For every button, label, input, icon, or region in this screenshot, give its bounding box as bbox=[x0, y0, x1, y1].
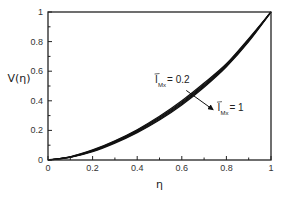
annotation-value: = 1 bbox=[229, 102, 244, 113]
y-tick-label: 0.2 bbox=[30, 125, 43, 135]
chart: 00.20.40.60.8100.20.40.60.81 η V(η) IMx … bbox=[0, 0, 281, 199]
annotation-subscript: Mx bbox=[158, 82, 166, 88]
annotation-layer: IMx = 0.2IMx = 1 bbox=[155, 74, 245, 117]
annotation-label-1: IMx = 0.2 bbox=[155, 74, 190, 89]
x-tick-label: 1 bbox=[268, 163, 273, 173]
x-tick-label: 0.8 bbox=[220, 163, 233, 173]
y-tick-label: 1 bbox=[38, 7, 43, 17]
tilde-mark bbox=[155, 74, 160, 75]
x-tick-label: 0.6 bbox=[176, 163, 189, 173]
annotation-arrow bbox=[186, 90, 213, 109]
y-tick-label: 0.8 bbox=[30, 37, 43, 47]
annotation-value: = 0.2 bbox=[167, 74, 190, 85]
x-tick-label: 0 bbox=[45, 163, 50, 173]
y-axis-label: V(η) bbox=[7, 72, 30, 85]
x-axis-label: η bbox=[156, 178, 163, 191]
y-tick-label: 0.4 bbox=[30, 96, 43, 106]
tick-labels-layer: 00.20.40.60.8100.20.40.60.81 bbox=[30, 7, 273, 173]
tilde-mark bbox=[217, 102, 222, 103]
annotation-subscript: Mx bbox=[220, 110, 228, 116]
x-tick-label: 0.4 bbox=[131, 163, 144, 173]
annotation-label-2: IMx = 1 bbox=[217, 102, 244, 117]
y-tick-label: 0 bbox=[38, 155, 43, 165]
y-tick-label: 0.6 bbox=[30, 66, 43, 76]
x-tick-label: 0.2 bbox=[86, 163, 99, 173]
